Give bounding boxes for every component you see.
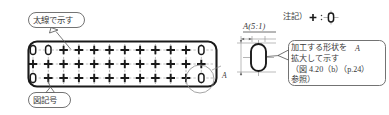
right-note-line-3: 参照） xyxy=(291,75,383,86)
note-slot-icon xyxy=(324,11,339,25)
note-prefix-label: 注記） xyxy=(283,12,307,22)
plate-slot-symbol-r2-c0 xyxy=(30,73,35,82)
plate-slot-symbol-r0-c0 xyxy=(30,45,35,54)
detail-slot-shape xyxy=(251,44,266,71)
note-colon xyxy=(321,15,323,21)
plate-slot-symbol-r2-c11 xyxy=(199,73,204,82)
plate-slot-symbol-r0-c11 xyxy=(199,45,204,54)
callout-thick-line-label: 太線で示す xyxy=(33,16,74,26)
right-note-line-2: （図 4.20（b）（p.24） xyxy=(291,65,383,76)
detail-view-scale-label: A(5:1) xyxy=(243,22,265,32)
right-note-box-text: 加工する形状を 拡大して示す （図 4.20（b）（p.24） 参照） xyxy=(291,43,383,86)
plate-slot-symbol-r0-c1 xyxy=(46,45,51,54)
callout-symbol-legend-label: 図記号 xyxy=(33,96,57,106)
plate-detail-zone-letter: A xyxy=(222,72,227,81)
drawing-canvas: 太線で示す 図記号 注記） A(5:1) A A 加工する形状を 拡大して示す … xyxy=(0,0,389,115)
right-note-line-1: 拡大して示す xyxy=(291,54,383,65)
note-legend-group xyxy=(310,11,339,25)
right-note-line-0: 加工する形状を xyxy=(291,43,383,54)
right-note-box-leader-tail xyxy=(267,56,279,57)
note-plus-icon xyxy=(310,14,317,21)
right-note-box-leader xyxy=(278,50,289,60)
detail-view-group xyxy=(237,32,276,76)
